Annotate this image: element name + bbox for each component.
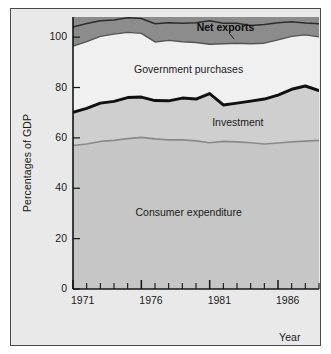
y-tick-label-20: 20 — [41, 232, 67, 244]
x-tick-label-1981: 1981 — [208, 294, 231, 306]
series-label-net-exports: Net exports — [197, 21, 255, 33]
x-tick-label-1976: 1976 — [139, 294, 162, 306]
series-label-investment: Investment — [212, 116, 263, 128]
x-tick-label-1986: 1986 — [276, 294, 299, 306]
y-tick-label-0: 0 — [41, 282, 67, 294]
y-tick-label-60: 60 — [41, 131, 67, 143]
x-tick-label-1971: 1971 — [71, 294, 94, 306]
chart-frame: Percentages of GDP Year 100806040200 197… — [10, 8, 321, 346]
y-tick-label-80: 80 — [41, 81, 67, 93]
y-tick-label-100: 100 — [41, 30, 67, 42]
stacked-area-plot — [11, 9, 320, 345]
y-tick-label-40: 40 — [41, 181, 67, 193]
series-label-consumer-expenditure: Consumer expenditure — [135, 206, 241, 218]
y-axis-title: Percentages of GDP — [21, 103, 33, 223]
x-axis-title: Year — [279, 331, 301, 343]
series-label-government-purchases: Government purchases — [134, 63, 243, 75]
chart-figure: Percentages of GDP Year 100806040200 197… — [0, 0, 331, 354]
